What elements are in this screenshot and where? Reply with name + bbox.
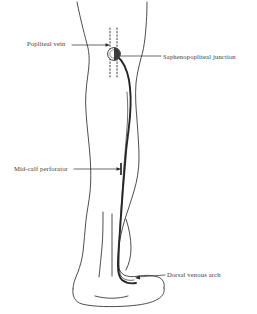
leader-arrowheads	[106, 43, 141, 279]
label-popliteal-vein: Popliteal vein	[27, 41, 66, 48]
label-mid-calf-perforator: Mid-calf perforator	[14, 166, 68, 173]
arrowhead-popliteal-vein	[106, 43, 111, 47]
foot-top-contour	[139, 275, 164, 288]
saphenous-companion-vein	[119, 92, 134, 280]
foot-sole-contour	[73, 288, 164, 307]
label-saphenopopliteal-junction: Saphenopopliteal junction	[163, 54, 236, 61]
leg-contour-right	[118, 2, 147, 266]
ankle-crease-line	[126, 219, 131, 270]
sole-crease	[95, 296, 128, 298]
spj-marker	[108, 48, 121, 61]
achilles-line-inner	[99, 212, 103, 277]
label-dorsal-venous-arch: Dorsal venous arch	[167, 272, 221, 279]
figure-canvas: Popliteal vein Saphenopopliteal junction…	[0, 0, 257, 314]
foot-dorsum-contour	[118, 266, 139, 277]
